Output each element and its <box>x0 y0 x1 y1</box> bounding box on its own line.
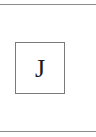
bottom-divider <box>0 131 96 132</box>
tile-letter: J <box>35 56 45 82</box>
top-divider <box>0 4 96 5</box>
letter-tile[interactable]: J <box>15 42 65 94</box>
